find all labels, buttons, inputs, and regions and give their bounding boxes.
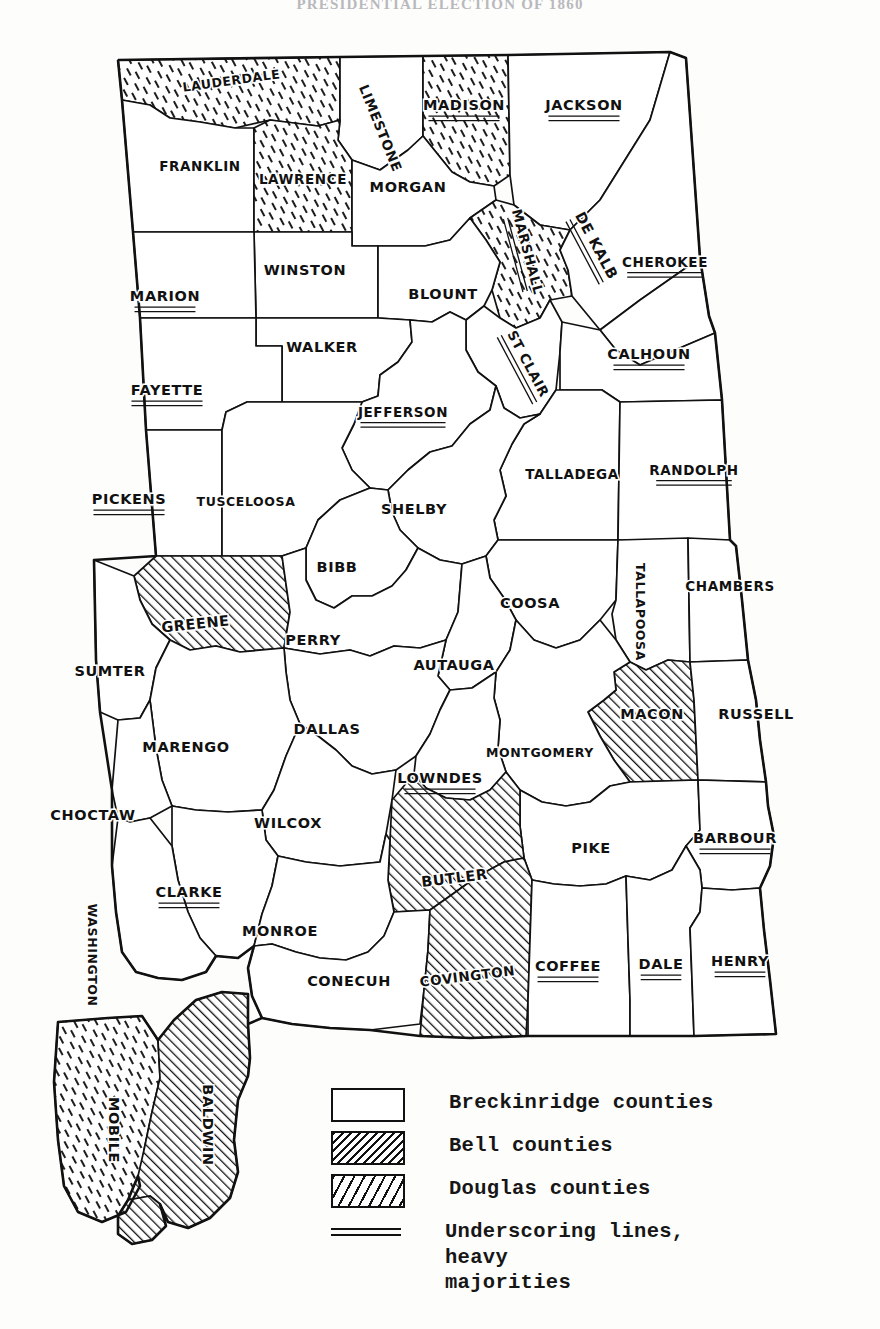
- county-label-morgan[interactable]: MORGAN: [370, 179, 447, 195]
- county-label-winston[interactable]: WINSTON: [264, 262, 347, 278]
- county-label-shelby[interactable]: SHELBY: [381, 501, 447, 517]
- legend-swatch-douglas: [331, 1174, 405, 1208]
- county-label-text: BLOUNT: [408, 286, 478, 302]
- legend-item-underscoring: Underscoring lines, heavy majorities: [331, 1217, 751, 1296]
- county-label-text: WASHINGTON: [85, 903, 100, 1006]
- county-label-text: BARBOUR: [693, 830, 777, 846]
- county-label-choctaw[interactable]: CHOCTAW: [50, 807, 135, 823]
- county-shape-tallapoosa[interactable]: [612, 538, 690, 670]
- legend-swatch-underscoring-lines: [331, 1217, 401, 1247]
- county-label-text: CHEROKEE: [622, 254, 708, 270]
- legend-item-douglas: Douglas counties: [331, 1174, 751, 1208]
- county-shape-chambers[interactable]: [688, 538, 748, 662]
- county-label-text: JACKSON: [544, 97, 623, 113]
- county-label-talladega[interactable]: TALLADEGA: [525, 466, 619, 482]
- county-label-text: MADISON: [423, 97, 505, 113]
- county-label-text: CHAMBERS: [685, 578, 775, 594]
- county-label-wilcox[interactable]: WILCOX: [254, 815, 322, 831]
- county-label-text: MOBILE: [106, 1097, 122, 1163]
- county-label-mobile[interactable]: MOBILE: [106, 1097, 122, 1163]
- legend-swatch-bell: [331, 1131, 405, 1165]
- county-label-text: WILCOX: [254, 815, 322, 831]
- county-label-text: MONTGOMERY: [486, 745, 594, 760]
- county-label-text: MARENGO: [142, 739, 229, 755]
- county-shapes-group: [54, 52, 776, 1244]
- county-label-text: COFFEE: [535, 958, 601, 974]
- county-label-text: PIKE: [571, 840, 611, 856]
- county-label-text: MARION: [130, 288, 200, 304]
- county-label-text: LOWNDES: [397, 770, 483, 786]
- legend-label-bell: Bell counties: [449, 1131, 613, 1159]
- county-shape-coffee[interactable]: [528, 876, 630, 1036]
- county-label-text: BIBB: [317, 559, 358, 575]
- county-label-text: PERRY: [285, 632, 341, 648]
- county-label-text: CHOCTAW: [50, 807, 135, 823]
- county-label-text: FRANKLIN: [159, 158, 241, 174]
- legend-label-underscoring: Underscoring lines, heavy majorities: [445, 1217, 751, 1296]
- county-label-tallapoosa[interactable]: TALLAPOOSA: [633, 563, 648, 661]
- county-label-franklin[interactable]: FRANKLIN: [159, 158, 241, 174]
- county-label-text: AUTAUGA: [413, 657, 494, 673]
- county-label-text: WINSTON: [264, 262, 347, 278]
- county-label-text: RUSSELL: [718, 706, 794, 722]
- county-label-walker[interactable]: WALKER: [286, 339, 358, 355]
- county-label-text: MORGAN: [370, 179, 447, 195]
- county-label-baldwin[interactable]: BALDWIN: [200, 1084, 216, 1165]
- county-label-text: CONECUH: [307, 973, 391, 989]
- county-label-blount[interactable]: BLOUNT: [408, 286, 478, 302]
- county-label-montgomery[interactable]: MONTGOMERY: [486, 745, 594, 760]
- county-label-text: TALLAPOOSA: [633, 563, 648, 661]
- legend-label-breckinridge: Breckinridge counties: [449, 1088, 714, 1116]
- county-label-conecuh[interactable]: CONECUH: [307, 973, 391, 989]
- legend-swatch-breckinridge: [331, 1088, 405, 1122]
- county-label-text: WALKER: [286, 339, 358, 355]
- county-label-dallas[interactable]: DALLAS: [293, 721, 360, 737]
- county-label-text: BALDWIN: [200, 1084, 216, 1165]
- legend-item-bell: Bell counties: [331, 1131, 751, 1165]
- county-label-marengo[interactable]: MARENGO: [142, 739, 229, 755]
- county-label-text: SUMTER: [74, 663, 145, 679]
- county-label-text: TUSCELOOSA: [197, 494, 296, 509]
- county-label-text: RANDOLPH: [649, 462, 738, 478]
- county-label-text: CALHOUN: [607, 346, 691, 362]
- legend-item-breckinridge: Breckinridge counties: [331, 1088, 751, 1122]
- county-label-text: COOSA: [500, 595, 560, 611]
- county-label-text: FAYETTE: [131, 382, 204, 398]
- map-legend: Breckinridge counties Bell counties Doug…: [331, 1088, 751, 1305]
- county-label-text: TALLADEGA: [525, 466, 619, 482]
- county-label-text: DALLAS: [293, 721, 360, 737]
- county-label-text: JEFFERSON: [357, 404, 448, 420]
- county-label-perry[interactable]: PERRY: [285, 632, 341, 648]
- county-label-pike[interactable]: PIKE: [571, 840, 611, 856]
- county-label-macon[interactable]: MACON: [620, 706, 684, 722]
- county-label-lawrence[interactable]: LAWRENCE: [259, 171, 347, 187]
- county-label-text: HENRY: [711, 953, 769, 969]
- county-label-autauga[interactable]: AUTAUGA: [413, 657, 494, 673]
- county-label-washington[interactable]: WASHINGTON: [85, 903, 100, 1006]
- county-shape-marion[interactable]: [133, 232, 256, 318]
- county-label-bibb[interactable]: BIBB: [317, 559, 358, 575]
- county-label-monroe[interactable]: MONROE: [242, 923, 318, 939]
- county-label-text: CLARKE: [155, 884, 222, 900]
- county-label-coosa[interactable]: COOSA: [500, 595, 560, 611]
- county-label-text: DALE: [639, 956, 684, 972]
- county-label-russell[interactable]: RUSSELL: [718, 706, 794, 722]
- county-label-text: SHELBY: [381, 501, 447, 517]
- county-label-sumter[interactable]: SUMTER: [74, 663, 145, 679]
- county-label-chambers[interactable]: CHAMBERS: [685, 578, 775, 594]
- county-label-text: PICKENS: [92, 491, 167, 507]
- legend-label-douglas: Douglas counties: [449, 1174, 651, 1202]
- county-label-tusceloosa[interactable]: TUSCELOOSA: [197, 494, 296, 509]
- county-label-text: MONROE: [242, 923, 318, 939]
- county-label-text: MACON: [620, 706, 684, 722]
- county-label-text: LAWRENCE: [259, 171, 347, 187]
